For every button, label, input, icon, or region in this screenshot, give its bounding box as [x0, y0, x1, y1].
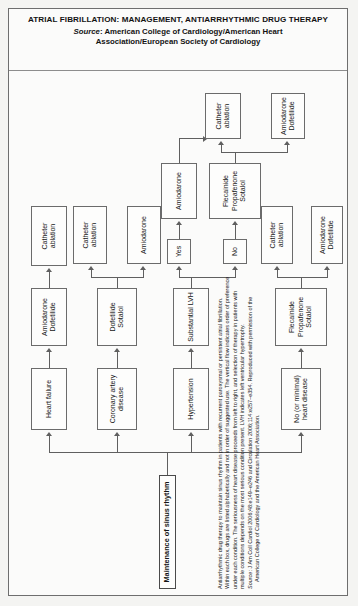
- figure-source: Source: American College of Cardiology/A…: [19, 27, 337, 48]
- node-amiodarone-dofetilide-c: Amiodarone Dofetilide: [311, 206, 343, 264]
- node-label-line-1: Catheter: [215, 103, 223, 130]
- edge-yes-to-amiodarone: [179, 225, 180, 239]
- node-label: Yes: [175, 246, 183, 257]
- node-amiodarone-dofetilide-a: Amiodarone Dofetilide: [31, 288, 67, 346]
- arrow-catheter-ablation-5: [218, 141, 224, 145]
- node-label: Amiodarone: [140, 216, 148, 254]
- footnote-line-6: American College of Cardiology and the A…: [254, 259, 261, 589]
- arrow-flecainide-1: [232, 221, 238, 225]
- node-coronary-artery-disease: Coronary artery disease: [97, 368, 137, 430]
- footnote-line-1: Antiarrhythmic drug therapy to maintain …: [217, 259, 224, 589]
- page-title: ATRIAL FIBRILLATION: MANAGEMENT, ANTIARR…: [19, 15, 337, 26]
- arrow-amiodarone-yes: [176, 221, 182, 225]
- edge-spine-to-cad: [117, 436, 118, 453]
- node-label: Catheter ablation: [269, 210, 286, 260]
- node-heart-failure: Heart failure: [31, 368, 67, 430]
- node-catheter-ablation-2: Catheter ablation: [73, 206, 107, 264]
- node-catheter-ablation-3: Catheter ablation: [261, 206, 293, 264]
- edge-cad-to-amiodarone: [143, 270, 144, 278]
- edge-amio-dofet-a-to-ablation: [49, 272, 50, 288]
- node-maintenance-of-sinus-rhythm: Maintenance of sinus rhythm: [159, 475, 176, 589]
- edge-cad-to-dofet-sotalol: [117, 352, 118, 368]
- arrow-catheter-ablation-1: [46, 268, 52, 272]
- node-label: Amiodarone: [175, 172, 183, 210]
- node-label-line-1: Dofetilide: [109, 302, 117, 331]
- node-label-line-1: Amiodarone: [319, 216, 327, 254]
- node-label-line-2: Dofetilide: [49, 302, 57, 331]
- arrow-substantial-lvh: [188, 348, 194, 352]
- edge-flec1-to-ablation: [221, 145, 222, 153]
- source-label: Source: [74, 27, 100, 36]
- edge-flec1-split: [221, 152, 287, 153]
- footnote-line-3: under each condition. The seriousness of…: [232, 259, 239, 589]
- figure-frame: ATRIAL FIBRILLATION: MANAGEMENT, ANTIARR…: [8, 8, 348, 596]
- edge-spine-to-heart-failure: [49, 436, 50, 453]
- arrow-hypertension: [188, 432, 194, 436]
- node-substantial-lvh: Substantial LVH: [173, 288, 209, 346]
- footnote-line-4: multiple conditions depends on the most …: [239, 259, 246, 589]
- node-label-line-2: Propafenone: [231, 171, 239, 211]
- node-catheter-ablation-1: Catheter ablation: [31, 206, 67, 266]
- node-label: Coronary artery disease: [109, 372, 126, 426]
- arrow-amio-dofet-a: [46, 348, 52, 352]
- arrow-amio-dofet-b: [284, 141, 290, 145]
- footnote-line-2: Within each box, drugs are listed alphab…: [224, 259, 231, 589]
- node-label-line-1: Amiodarone: [280, 97, 288, 135]
- node-dofetilide-sotalol: Dofetilide Sotalol: [97, 288, 137, 346]
- edge-htn-to-lvh: [191, 352, 192, 368]
- edge-lvh-out: [191, 278, 192, 288]
- node-amiodarone-dofetilide-b: Amiodarone Dofetilide: [271, 93, 305, 139]
- footnote-stage: Antiarrhythmic drug therapy to maintain …: [217, 259, 343, 589]
- node-label: Heart failure: [45, 380, 53, 418]
- node-hypertension: Hypertension: [173, 368, 209, 430]
- footnote-source-line: Source: J Am Coll Cardiol 2006;48:e149–e…: [247, 259, 254, 589]
- page-background: ATRIAL FIBRILLATION: MANAGEMENT, ANTIARR…: [0, 0, 358, 606]
- node-label: Maintenance of sinus rhythm: [163, 482, 171, 583]
- node-amiodarone-yes: Amiodarone: [161, 163, 197, 219]
- arrow-dofet-sotalol: [114, 348, 120, 352]
- node-catheter-ablation-4: Catheter ablation: [205, 93, 241, 139]
- edge-spine-to-hypertension: [191, 436, 192, 453]
- edge-root-trunk: [167, 453, 168, 475]
- title-line-1: ATRIAL FIBRILLATION: MANAGEMENT, ANTIARR…: [28, 15, 260, 24]
- node-label-line-2: ablation: [223, 104, 231, 129]
- arrow-cad: [114, 432, 120, 436]
- node-flecainide-propafenone-sotalol-1: Flecainide Propafenone Sotalol: [209, 163, 261, 219]
- source-line-1: : American College of Cardiology/America…: [100, 27, 283, 36]
- node-yes: Yes: [167, 239, 191, 264]
- arrow-amiodarone-cad: [140, 266, 146, 270]
- edge-no-to-flecainide: [235, 225, 236, 239]
- arrow-yes: [176, 266, 182, 270]
- figure-footnote: Antiarrhythmic drug therapy to maintain …: [217, 259, 343, 589]
- edge-flec1-out: [235, 153, 236, 163]
- title-line-2: DRUG THERAPY: [262, 15, 328, 24]
- edge-flec1-to-amio-dofet: [287, 145, 288, 153]
- arrow-catheter-ablation-2: [88, 266, 94, 270]
- node-label-line-3: Sotalol: [239, 180, 247, 201]
- edge-lvh-to-yes: [179, 270, 180, 278]
- node-label: Catheter ablation: [82, 210, 99, 260]
- node-label-line-1: Amiodarone: [41, 298, 49, 336]
- edge-amio-yes-down: [179, 138, 203, 139]
- edge-hf-to-amio-dofet: [49, 352, 50, 368]
- figure-title-block: ATRIAL FIBRILLATION: MANAGEMENT, ANTIARR…: [9, 15, 347, 47]
- node-label: Hypertension: [187, 378, 195, 419]
- node-label: No: [231, 247, 239, 256]
- edge-cad-split: [91, 277, 143, 278]
- node-label-line-2: Sotalol: [117, 306, 125, 327]
- source-line-2: Association/European Society of Cardiolo…: [96, 37, 261, 46]
- edge-amio-yes-out: [179, 139, 180, 163]
- node-label: Substantial LVH: [187, 292, 195, 342]
- footnote-line-5: : J Am Coll Cardiol 2006;48:e149–e246 an…: [247, 297, 253, 572]
- node-label-line-2: Dofetilide: [327, 220, 335, 249]
- node-label-line-2: Dofetilide: [288, 101, 296, 130]
- arrow-heart-failure: [46, 432, 52, 436]
- footnote-source-label: Source: [247, 572, 253, 589]
- node-label-line-1: Flecainide: [222, 175, 230, 207]
- node-label: Catheter ablation: [41, 210, 58, 262]
- edge-cad-to-ablation: [91, 270, 92, 278]
- edge-dofet-sotalol-out: [117, 278, 118, 288]
- node-amiodarone-cad: Amiodarone: [127, 206, 161, 264]
